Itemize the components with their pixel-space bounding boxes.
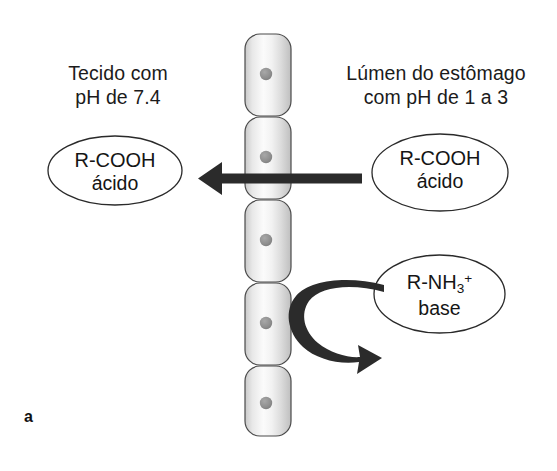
bubble-right-formula: R-COOH [372,146,508,170]
bubble-left-sublabel: ácido [48,172,182,195]
cell-nucleus [260,397,272,409]
bubble-right-sublabel: ácido [372,170,508,193]
base-rejection-arrow [289,280,384,374]
bubble-right-acid-label: R-COOH ácido [372,146,508,193]
epithelial-cell [245,283,291,365]
bubble-base-formula: R-NH3+ [374,270,505,297]
epithelial-cell [245,200,291,282]
epithelial-cell [245,34,291,116]
cell-nucleus [260,234,272,246]
bubble-base-label: R-NH3+ base [374,270,505,321]
cell-nucleus [260,68,272,80]
bubble-left-formula: R-COOH [48,148,182,172]
caption-lumen-line2: com pH de 1 a 3 [322,86,550,110]
caption-lumen-line1: Lúmen do estômago [322,62,550,86]
cell-nucleus [260,317,272,329]
caption-stomach-lumen: Lúmen do estômago com pH de 1 a 3 [322,62,550,110]
bubble-base-formula-superscript: + [464,271,472,286]
epithelial-cell-column [245,34,291,436]
caption-tissue: Tecido com pH de 7.4 [18,62,218,110]
bubble-base-sublabel: base [374,297,505,320]
epithelial-cell [245,117,291,199]
bubble-left-acid-label: R-COOH ácido [48,148,182,195]
panel-label: a [24,408,33,426]
epithelial-cell [245,366,291,436]
bubble-base-formula-prefix: R-NH [407,271,457,293]
caption-tissue-line2: pH de 7.4 [18,86,218,110]
figure-panel: Tecido com pH de 7.4 Lúmen do estômago c… [0,0,557,471]
caption-tissue-line1: Tecido com [18,62,218,86]
cell-nucleus [260,151,272,163]
